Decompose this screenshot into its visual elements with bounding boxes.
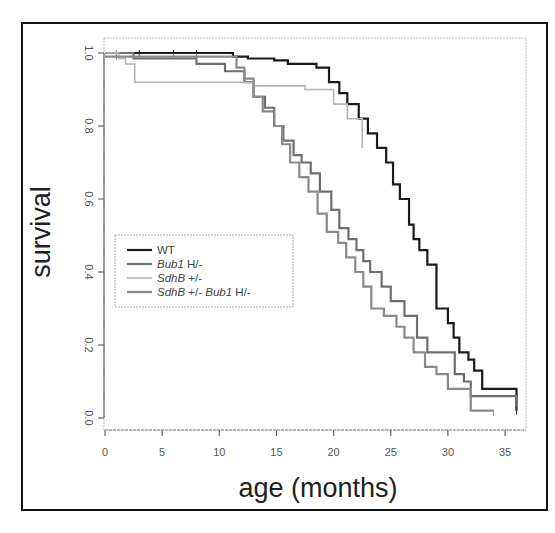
x-tick-label: 30	[442, 446, 454, 458]
x-axis: 05101520253035	[102, 430, 526, 458]
legend-label: SdhB +/-	[157, 272, 202, 284]
legend: WTBub1 H/-SdhB +/-SdhB +/- Bub1 H/-	[115, 235, 293, 307]
x-tick-label: 15	[270, 446, 282, 458]
x-tick-label: 10	[213, 446, 225, 458]
survival-curve-4	[105, 57, 494, 411]
legend-label: Bub1 H/-	[157, 258, 203, 270]
y-axis: 0.00.20.40.60.81.0	[83, 45, 104, 425]
x-axis-label: age (months)	[238, 473, 397, 503]
y-axis-label: survival	[26, 186, 56, 278]
survival-curve-2	[105, 53, 516, 411]
y-tick-label: 0.6	[83, 191, 95, 206]
y-tick-label: 0.8	[83, 118, 95, 133]
y-tick-label: 0.2	[83, 337, 95, 352]
x-tick-label: 25	[385, 446, 397, 458]
x-tick-label: 5	[159, 446, 165, 458]
y-tick-label: 1.0	[83, 45, 95, 60]
legend-label: SdhB +/- Bub1 H/-	[157, 286, 251, 298]
survival-chart: 0.00.20.40.60.81.005101520253035age (mon…	[0, 0, 555, 533]
x-tick-label: 35	[499, 446, 511, 458]
y-tick-label: 0.0	[83, 410, 95, 425]
y-tick-label: 0.4	[83, 264, 95, 279]
legend-label: WT	[157, 244, 175, 256]
x-tick-label: 0	[102, 446, 108, 458]
plot-area	[104, 38, 526, 430]
x-tick-label: 20	[327, 446, 339, 458]
